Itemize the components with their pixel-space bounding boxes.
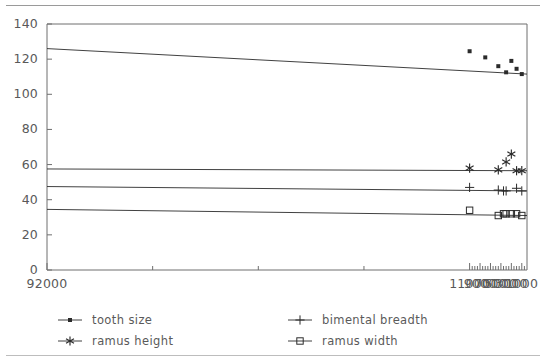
y-axis-tick-label: 140: [4, 16, 38, 31]
legend-marker-filled-square: [68, 318, 72, 322]
data-point-ramus-width: [466, 207, 472, 213]
trend-line-tooth-size: [47, 49, 527, 74]
legend-label-ramus-width: ramus width: [322, 334, 398, 348]
chart-plot-area: [0, 0, 546, 364]
data-point-tooth-size: [509, 59, 513, 63]
series-layer: [47, 49, 527, 219]
data-point-tooth-size: [483, 55, 487, 59]
data-point-tooth-size: [504, 70, 508, 74]
y-axis-tick-label: 100: [4, 86, 38, 101]
y-axis-tick-label: 40: [4, 192, 38, 207]
trend-line-ramus-height: [47, 169, 527, 171]
legend-label-bimental-breadth: bimental breadth: [322, 313, 428, 327]
data-point-tooth-size: [468, 49, 472, 53]
y-axis-tick-label: 80: [4, 121, 38, 136]
data-point-tooth-size: [515, 67, 519, 71]
trend-line-bimental-breadth: [47, 187, 527, 191]
legend-label-ramus-height: ramus height: [92, 334, 173, 348]
legend-label-tooth-size: tooth size: [92, 313, 152, 327]
data-point-tooth-size: [496, 64, 500, 68]
data-point-tooth-size: [520, 72, 524, 76]
y-axis-tick-label: 60: [4, 157, 38, 172]
chart-figure: 020406080100120140 920001100090007000500…: [0, 0, 546, 364]
trend-line-ramus-width: [47, 209, 527, 215]
y-axis-tick-label: 120: [4, 51, 38, 66]
y-axis-tick-label: 20: [4, 227, 38, 242]
x-axis-tick-label: 92000: [12, 276, 82, 291]
y-axis-tick-label: 0: [4, 262, 38, 277]
x-axis-tick-label: 1000: [487, 276, 546, 291]
